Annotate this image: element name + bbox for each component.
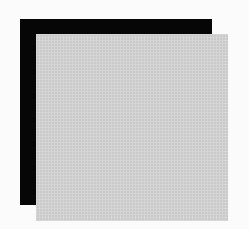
front-gray-square — [36, 34, 228, 221]
